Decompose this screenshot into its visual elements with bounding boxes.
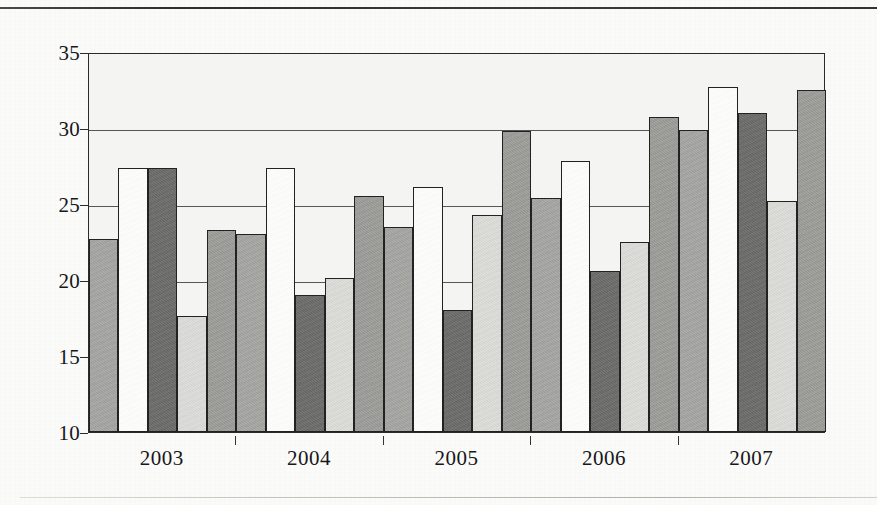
bar-2006-series-3 [590, 271, 619, 432]
y-tick-mark-15 [80, 357, 88, 358]
y-tick-label-15: 15 [58, 345, 80, 370]
y-tick-mark-20 [80, 281, 88, 282]
y-tick-mark-35 [80, 53, 88, 54]
bar-2003-series-3 [148, 168, 177, 432]
y-tick-mark-25 [80, 205, 88, 206]
bar-2004-series-3 [295, 295, 324, 432]
bar-2007-series-3 [738, 113, 767, 432]
y-tick-mark-10 [80, 433, 88, 434]
bar-2006-series-5 [649, 117, 678, 432]
y-tick-label-25: 25 [58, 193, 80, 218]
bar-2003-series-1 [89, 239, 118, 432]
bar-2004-series-1 [236, 234, 265, 432]
bar-2003-series-4 [177, 316, 206, 432]
bar-2003-series-5 [207, 230, 236, 432]
bar-2005-series-2 [413, 187, 442, 432]
x-tick-label-2003: 2003 [140, 446, 184, 471]
bar-2007-series-2 [708, 87, 737, 432]
top-horizontal-rule [0, 7, 877, 9]
x-tick-label-2005: 2005 [435, 446, 479, 471]
x-tick-mark-4 [678, 436, 679, 445]
x-tick-mark-2 [383, 436, 384, 445]
bar-2007-series-1 [679, 130, 708, 432]
scanned-page: 101520253035 20032004200520062007 [0, 0, 877, 505]
y-axis-labels: 101520253035 [24, 53, 80, 433]
y-tick-mark-30 [80, 129, 88, 130]
x-tick-label-2006: 2006 [582, 446, 626, 471]
x-tick-label-2007: 2007 [729, 446, 773, 471]
bar-2004-series-5 [354, 196, 383, 432]
bottom-horizontal-rule [20, 497, 877, 498]
y-tick-label-20: 20 [58, 269, 80, 294]
bar-2006-series-4 [620, 242, 649, 432]
bar-2005-series-1 [384, 227, 413, 432]
bar-2007-series-5 [797, 90, 826, 432]
bar-2004-series-4 [325, 278, 354, 432]
x-axis-labels: 20032004200520062007 [88, 436, 825, 476]
bar-2004-series-2 [266, 168, 295, 432]
bar-chart-plot-area [88, 53, 825, 433]
bar-2005-series-4 [472, 215, 501, 432]
y-tick-label-10: 10 [58, 421, 80, 446]
y-tick-label-30: 30 [58, 117, 80, 142]
y-tick-label-35: 35 [58, 41, 80, 66]
bar-2006-series-2 [561, 161, 590, 432]
bar-2005-series-5 [502, 131, 531, 432]
bar-2006-series-1 [531, 198, 560, 432]
bar-2005-series-3 [443, 310, 472, 432]
x-tick-mark-1 [235, 436, 236, 445]
bar-2003-series-2 [118, 168, 147, 432]
bars-layer [89, 54, 824, 432]
x-tick-label-2004: 2004 [287, 446, 331, 471]
x-tick-mark-3 [530, 436, 531, 445]
bar-2007-series-4 [767, 201, 796, 432]
